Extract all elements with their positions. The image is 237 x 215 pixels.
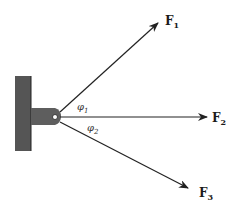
label-f2: F2 — [212, 111, 226, 127]
label-f3: F3 — [199, 186, 214, 202]
angle-phi1: φ1 — [77, 101, 88, 115]
pin-joint — [53, 115, 58, 120]
force-vector-f1 — [60, 23, 158, 112]
wall — [15, 76, 31, 151]
force-diagram: F1 F2 F3 φ1 φ2 — [0, 0, 237, 215]
angle-phi2: φ2 — [87, 122, 99, 136]
label-f1: F1 — [165, 14, 179, 30]
force-vector-f3 — [60, 122, 188, 188]
